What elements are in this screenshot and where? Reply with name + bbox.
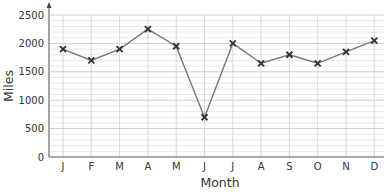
- y-tick-label: 2000: [19, 38, 44, 49]
- axes: [47, 2, 384, 157]
- x-tick-label: J: [230, 161, 234, 172]
- x-tick-label: A: [144, 161, 151, 172]
- y-tick-label: 2500: [19, 10, 44, 21]
- series-line: [63, 29, 374, 117]
- x-tick-labels: JFMAMJJASOND: [61, 161, 379, 172]
- x-axis-title: Month: [200, 175, 239, 190]
- y-tick-labels: 05001000150020002500: [19, 10, 44, 163]
- x-tick-label: J: [202, 161, 206, 172]
- x-tick-label: A: [258, 161, 265, 172]
- y-tick-label: 0: [38, 152, 44, 163]
- x-tick-label: M: [172, 161, 181, 172]
- y-axis-title: Miles: [1, 70, 16, 102]
- x-tick-label: M: [115, 161, 124, 172]
- y-axis-arrow-icon: [47, 2, 52, 8]
- y-tick-label: 1500: [19, 66, 44, 77]
- x-tick-label: F: [88, 161, 94, 172]
- y-tick-label: 500: [25, 123, 44, 134]
- x-tick-label: D: [370, 161, 378, 172]
- x-tick-label: S: [286, 161, 292, 172]
- x-tick-label: O: [314, 161, 322, 172]
- x-tick-label: J: [61, 161, 65, 172]
- line-chart: 05001000150020002500 JFMAMJJASOND Miles …: [0, 0, 384, 192]
- y-tick-label: 1000: [19, 95, 44, 106]
- x-tick-label: N: [342, 161, 349, 172]
